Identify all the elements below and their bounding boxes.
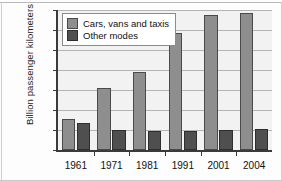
bar-2001-series1 — [204, 15, 218, 150]
y-axis-title: Billion passenger kilometers — [24, 0, 35, 141]
bar-1981-series2 — [148, 131, 162, 150]
x-tick-label: 1991 — [172, 160, 194, 171]
y-tick-mark — [53, 10, 58, 11]
bar-2004-series2 — [255, 129, 269, 150]
x-tick-label: 2004 — [243, 160, 265, 171]
x-tick-label: 2001 — [207, 160, 229, 171]
y-tick-mark — [53, 90, 58, 91]
y-tick-mark — [53, 110, 58, 111]
y-tick-mark — [53, 50, 58, 51]
gridline — [58, 10, 272, 11]
bar-2004-series1 — [240, 13, 254, 150]
x-tick-label: 1981 — [136, 160, 158, 171]
legend-label-cars: Cars, vans and taxis — [83, 19, 169, 29]
bar-1991-series1 — [169, 33, 183, 150]
frame-top-border — [0, 2, 282, 3]
bar-1981-series1 — [133, 72, 147, 150]
legend-item-other: Other modes — [67, 30, 169, 41]
bar-2001-series2 — [219, 130, 233, 150]
x-tick-mark — [129, 151, 130, 156]
x-tick-label: 1971 — [100, 160, 122, 171]
legend-label-other: Other modes — [83, 31, 138, 41]
y-tick-mark — [53, 30, 58, 31]
bar-1971-series2 — [112, 130, 126, 150]
x-tick-mark — [165, 151, 166, 156]
x-tick-mark — [236, 151, 237, 156]
bar-chart: Billion passenger kilometers 01002003004… — [0, 0, 282, 181]
bar-1971-series1 — [97, 88, 111, 150]
chart-legend: Cars, vans and taxis Other modes — [62, 13, 176, 46]
y-tick-mark — [53, 150, 58, 151]
x-tick-label: 1961 — [65, 160, 87, 171]
frame-left-border — [1, 2, 2, 181]
frame-right-border — [281, 2, 282, 181]
bar-1961-series2 — [77, 123, 91, 150]
frame-bottom-border — [0, 180, 282, 181]
bar-1991-series2 — [184, 131, 198, 150]
x-tick-mark — [94, 151, 95, 156]
bar-1961-series1 — [62, 119, 76, 150]
y-tick-mark — [53, 130, 58, 131]
y-tick-mark — [53, 70, 58, 71]
legend-swatch-other — [67, 30, 78, 41]
legend-item-cars: Cars, vans and taxis — [67, 18, 169, 29]
x-tick-mark — [201, 151, 202, 156]
legend-swatch-cars — [67, 18, 78, 29]
